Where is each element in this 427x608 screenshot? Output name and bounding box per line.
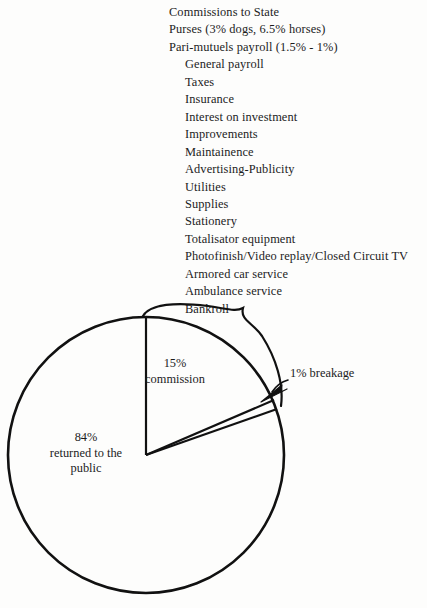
label-breakage-text: 1% breakage	[290, 366, 400, 382]
label-commission-word: commission	[128, 372, 222, 388]
breakdown-list-item: Pari-mutuels payroll (1.5% - 1%)	[169, 39, 427, 56]
breakage-arrowhead	[261, 385, 287, 402]
breakdown-list-item: Commissions to State	[169, 4, 427, 21]
breakdown-list-item: Maintainence	[169, 144, 427, 161]
breakdown-list-item: Utilities	[169, 179, 427, 196]
label-breakage: 1% breakage	[290, 366, 400, 382]
breakdown-list-item: Interest on investment	[169, 109, 427, 126]
breakdown-list-item: Insurance	[169, 91, 427, 108]
breakdown-list-item: Totalisator equipment	[169, 231, 427, 248]
breakdown-list-item: Supplies	[169, 196, 427, 213]
label-commission-pct: 15%	[128, 356, 222, 372]
label-public-return: 84% returned to the public	[24, 430, 148, 477]
breakdown-list-item: General payroll	[169, 56, 427, 73]
pie-chart-figure: 15% commission 84% returned to the publi…	[0, 296, 427, 608]
label-public-pct: 84%	[24, 430, 148, 446]
label-commission: 15% commission	[128, 356, 222, 387]
pie-radius-breakage-end	[146, 400, 274, 455]
breakdown-list-item: Taxes	[169, 74, 427, 91]
label-public-line3: public	[24, 461, 148, 477]
label-public-line2: returned to the	[24, 446, 148, 462]
figure-page: Commissions to StatePurses (3% dogs, 6.5…	[0, 0, 427, 608]
pie-radius-commission-end	[146, 409, 277, 455]
breakdown-list-item: Armored car service	[169, 266, 427, 283]
breakdown-list-item: Advertising-Publicity	[169, 161, 427, 178]
commission-breakdown-list: Commissions to StatePurses (3% dogs, 6.5…	[169, 4, 427, 318]
breakdown-list-item: Photofinish/Video replay/Closed Circuit …	[169, 248, 427, 265]
breakdown-list-item: Purses (3% dogs, 6.5% horses)	[169, 21, 427, 38]
breakdown-list-item: Stationery	[169, 213, 427, 230]
breakdown-list-item: Improvements	[169, 126, 427, 143]
